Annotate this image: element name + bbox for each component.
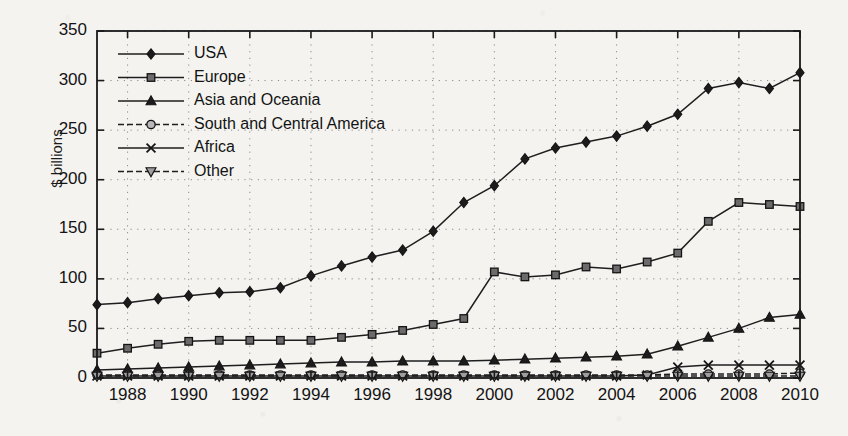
y-tick-label: 100 xyxy=(29,268,87,288)
legend-item-label: Other xyxy=(194,162,234,180)
y-tick-label: 250 xyxy=(29,119,87,139)
x-tick-label: 2000 xyxy=(462,385,526,405)
x-tick-label: 1992 xyxy=(218,385,282,405)
y-tick-label: 50 xyxy=(29,317,87,337)
x-tick-label: 2004 xyxy=(585,385,649,405)
legend-item-label: South and Central America xyxy=(194,115,385,133)
legend-lines-layer xyxy=(118,49,184,177)
x-tick-label: 2006 xyxy=(646,385,710,405)
y-tick-label: 300 xyxy=(29,70,87,90)
x-tick-label: 2008 xyxy=(707,385,771,405)
y-tick-label: 200 xyxy=(29,169,87,189)
y-tick-label: 150 xyxy=(29,218,87,238)
chart-figure: $ billions 350300250200150100500 1988199… xyxy=(0,0,848,436)
x-tick-label: 1988 xyxy=(96,385,160,405)
y-tick-label: 0 xyxy=(29,367,87,387)
line-chart-canvas xyxy=(0,0,848,436)
x-tick-label: 2010 xyxy=(768,385,832,405)
x-tick-label: 1990 xyxy=(157,385,221,405)
x-tick-label: 1996 xyxy=(340,385,404,405)
x-tick-label: 1998 xyxy=(401,385,465,405)
legend-item-label: Europe xyxy=(194,68,246,86)
legend-item-label: Africa xyxy=(194,138,235,156)
x-tick-label: 2002 xyxy=(523,385,587,405)
y-tick-label: 350 xyxy=(29,20,87,40)
legend-item-label: USA xyxy=(194,44,227,62)
x-tick-label: 1994 xyxy=(279,385,343,405)
legend-item-label: Asia and Oceania xyxy=(194,91,320,109)
